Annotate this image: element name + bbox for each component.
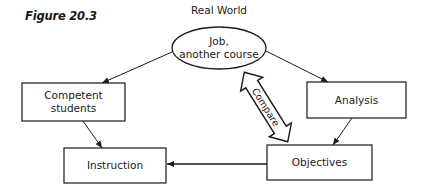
- competent-students-node: Competent students: [22, 83, 125, 121]
- competent-students-line2: students: [44, 102, 102, 115]
- compare-arrow: Compare: [233, 65, 299, 148]
- real-world-node: Job, another course: [172, 28, 266, 68]
- figure-label: Figure 20.3: [25, 10, 97, 23]
- compare-label: Compare: [250, 86, 282, 129]
- objectives-label: Objectives: [292, 156, 347, 169]
- real-world-heading: Real World: [179, 4, 259, 16]
- edge-realworld-to-analysis: [266, 51, 328, 82]
- analysis-label: Analysis: [335, 94, 378, 107]
- real-world-line2: another course: [179, 48, 259, 61]
- instruction-label: Instruction: [87, 159, 143, 172]
- edge-analysis-to-objectives: [333, 118, 352, 145]
- analysis-node: Analysis: [307, 82, 406, 118]
- objectives-node: Objectives: [267, 145, 372, 180]
- edge-realworld-to-competent: [102, 52, 172, 83]
- edge-competent-to-instruction: [83, 121, 102, 148]
- instruction-node: Instruction: [64, 148, 166, 183]
- competent-students-line1: Competent: [44, 89, 102, 102]
- real-world-line1: Job,: [179, 35, 259, 48]
